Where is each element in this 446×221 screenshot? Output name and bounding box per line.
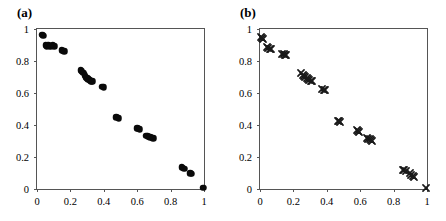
xtick-mark [37,189,38,192]
ytick-mark [257,29,260,30]
ytick-mark [257,93,260,94]
data-point-dot [100,84,107,91]
ytick-mark [257,125,260,126]
xtick-label: 0 [257,196,262,207]
data-point-dot [89,78,96,85]
xtick-label: 0 [34,196,39,207]
data-point-cross [422,184,430,192]
data-point-cross [368,137,376,145]
data-point-dot [188,171,195,178]
ytick-label: 1 [224,24,252,35]
ytick-label: 0.2 [224,152,252,163]
chart-panel-b: (b) 00.20.40.60.8100.20.40.60.81 [223,0,446,221]
data-point-dot [40,32,47,39]
figure-two-scatter-panels: (a) 00.20.40.60.8100.20.40.60.81 (b) 00.… [0,0,446,221]
ytick-mark [34,93,37,94]
xtick-label: 0.4 [320,196,333,207]
ytick-mark [34,61,37,62]
xtick-mark [104,189,105,192]
ytick-label: 0.2 [1,152,29,163]
plot-area-a: 00.20.40.60.8100.20.40.60.81 [37,29,204,189]
ytick-mark [34,29,37,30]
xtick-mark [70,189,71,192]
ytick-label: 1 [1,24,29,35]
panel-b-label: (b) [240,5,256,21]
data-point-cross [410,173,418,181]
xtick-label: 0.6 [354,196,367,207]
data-point-cross [282,51,290,59]
ytick-label: 0.8 [1,56,29,67]
ytick-mark [257,157,260,158]
ytick-mark [257,61,260,62]
data-point-dot [136,126,143,133]
data-point-cross [308,77,316,85]
xtick-mark [171,189,172,192]
data-point-dot [61,48,68,55]
data-point-cross [321,86,329,94]
xtick-mark [293,189,294,192]
xtick-mark [394,189,395,192]
panel-a-label: (a) [17,5,32,21]
plot-frame-b: 00.20.40.60.8100.20.40.60.81 [259,28,428,190]
xtick-label: 0.2 [64,196,77,207]
data-point-dot [150,135,157,142]
plot-frame-a: 00.20.40.60.8100.20.40.60.81 [36,28,205,190]
data-point-dot [116,115,123,122]
xtick-mark [360,189,361,192]
xtick-label: 0.8 [387,196,400,207]
xtick-mark [137,189,138,192]
ytick-label: 0.6 [1,88,29,99]
xtick-label: 1 [201,196,206,207]
ytick-label: 0.6 [224,88,252,99]
ytick-label: 0.4 [1,120,29,131]
xtick-label: 0.8 [164,196,177,207]
ytick-label: 0.8 [224,56,252,67]
xtick-label: 0.6 [131,196,144,207]
data-point-dot [200,184,207,191]
xtick-label: 1 [424,196,429,207]
ytick-label: 0 [1,184,29,195]
ytick-mark [34,125,37,126]
data-point-cross [267,45,275,53]
ytick-label: 0 [224,184,252,195]
chart-panel-a: (a) 00.20.40.60.8100.20.40.60.81 [0,0,223,221]
data-point-dot [51,43,58,50]
data-point-cross [259,35,267,43]
ytick-label: 0.4 [224,120,252,131]
xtick-label: 0.4 [97,196,110,207]
xtick-mark [260,189,261,192]
xtick-label: 0.2 [287,196,300,207]
xtick-mark [327,189,328,192]
plot-area-b: 00.20.40.60.8100.20.40.60.81 [260,29,427,189]
ytick-mark [34,157,37,158]
data-point-cross [336,118,344,126]
